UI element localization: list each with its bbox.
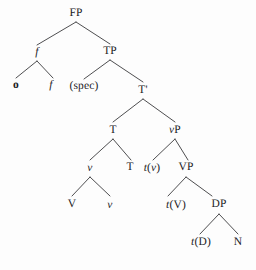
node-label-trace-target: V	[173, 199, 181, 211]
tree-node-v: V	[68, 199, 76, 211]
tree-node-t2: T	[126, 162, 133, 174]
branch-line-fp	[37, 22, 76, 45]
node-label-paren-close: )	[182, 199, 186, 211]
branch-line-vp	[153, 139, 175, 160]
tree-node-spec: (spec)	[70, 81, 99, 93]
syntax-tree-figure: FPfTPof(spec)T'TvPvTt(v)VPVvt(V)DPt(D)N	[0, 0, 256, 270]
tree-node-tbar: T'	[138, 85, 147, 97]
branch-line-dp	[200, 214, 219, 234]
branch-line-vp	[186, 177, 212, 196]
node-label-trace-target: D	[198, 236, 206, 248]
tree-node-fp: FP	[69, 8, 82, 20]
tree-node-v1: v	[87, 163, 92, 175]
node-label-paren-close: )	[156, 162, 160, 174]
tree-node-n: N	[234, 237, 242, 249]
branch-line-dp	[219, 214, 238, 234]
node-label-paren-close: )	[207, 236, 211, 248]
branch-line-tbar	[143, 99, 175, 122]
tree-node-o: o	[13, 80, 19, 92]
tree-node-tv: t(V)	[166, 200, 186, 212]
node-label-upright-part: P	[174, 124, 181, 136]
branch-line-tbar	[113, 99, 143, 122]
tree-node-f2: f	[49, 80, 52, 92]
tree-node-tp: TP	[103, 46, 117, 58]
branch-line-v1	[90, 177, 110, 196]
branch-line-f1	[16, 61, 37, 78]
branch-line-vp	[175, 139, 188, 160]
tree-node-vp: VP	[178, 162, 193, 174]
tree-node-v2: v	[107, 200, 112, 212]
branch-line-tp	[84, 60, 110, 79]
tree-branches-layer	[0, 0, 256, 270]
tree-node-vp: vP	[169, 125, 181, 137]
branch-line-fp	[76, 22, 110, 44]
tree-node-f1: f	[35, 47, 38, 59]
branch-line-vp	[168, 177, 186, 196]
branch-line-t1	[90, 139, 113, 160]
tree-node-tv: t(v)	[144, 163, 161, 175]
branch-line-f1	[37, 61, 53, 78]
branch-line-tp	[110, 60, 143, 82]
tree-node-td: t(D)	[191, 237, 211, 249]
branch-line-v1	[72, 177, 90, 196]
branch-group	[16, 22, 238, 234]
branch-line-t1	[113, 139, 131, 160]
tree-node-t1: T	[109, 125, 116, 137]
tree-node-dp: DP	[211, 199, 226, 211]
